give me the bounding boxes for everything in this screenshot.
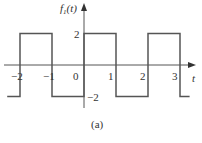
x-axis-label: t: [192, 72, 196, 84]
y-axis-arrow-icon: [81, 3, 87, 11]
x-tick-labels: −2−10123: [11, 70, 178, 82]
x-tick-label: 0: [73, 70, 79, 82]
x-tick-label: 1: [108, 70, 114, 82]
t-axis-arrow-icon: [188, 62, 196, 68]
square-wave-chart: f1(t) t −2−10123 2 −2 (a): [0, 0, 202, 143]
x-tick-label: 3: [172, 70, 178, 82]
y-axis-label: f1(t): [60, 2, 77, 16]
x-tick-label: −2: [11, 70, 23, 82]
x-tick-label: −1: [43, 70, 55, 82]
y-tick-label-neg2: −2: [87, 91, 99, 103]
x-tick-label: 2: [140, 70, 146, 82]
figure-caption: (a): [91, 118, 104, 131]
y-tick-label-2: 2: [74, 28, 80, 40]
